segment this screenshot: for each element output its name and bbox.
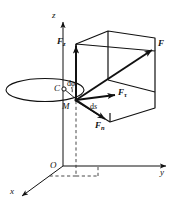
force-normal-subscript: n: [101, 124, 105, 131]
arc-differential-label: ds: [90, 103, 97, 111]
force-vertical-subscript: z: [63, 40, 66, 47]
force-vectors: [76, 46, 152, 119]
x-axis-label: x: [10, 187, 14, 196]
angle-differential-symbol: φ: [71, 79, 75, 88]
force-tangential-subscript: τ: [124, 91, 127, 98]
origin-label: O: [50, 161, 57, 170]
force-normal-label: Fn: [95, 121, 105, 130]
z-axis-label: z: [52, 11, 56, 20]
arc-differential-symbol: s: [94, 102, 97, 111]
x-axis: [22, 166, 63, 196]
y-axis-label: y: [160, 168, 164, 177]
particle-point-label: M: [62, 102, 70, 111]
center-point-label: C: [54, 84, 60, 93]
center-point-marker: [62, 87, 66, 91]
box-inner-horizontal-edge: [108, 80, 155, 92]
force-resultant-arrow: [76, 50, 152, 100]
force-vertical-label: Fz: [57, 37, 66, 46]
force-tangential-label: Fτ: [118, 88, 127, 97]
physics-force-diagram: z y x O C M dφ ds F Fz Fτ Fn: [0, 0, 189, 211]
force-resultant-letter: F: [158, 38, 164, 48]
particle-point-marker: [74, 98, 77, 101]
angle-differential-label: dφ: [67, 80, 75, 88]
force-resultant-label: F: [158, 39, 164, 48]
